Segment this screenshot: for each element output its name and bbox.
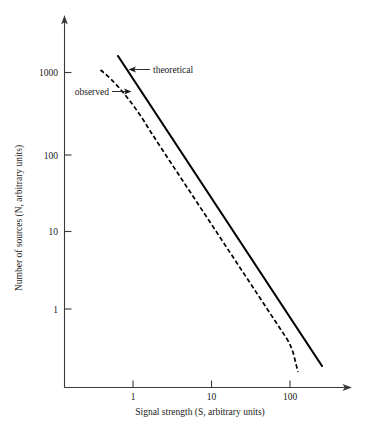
curve-theoretical [118, 56, 322, 366]
y-axis-title: Number of sources (N, arbitrary units) [14, 145, 25, 291]
log-log-plot: 1000 100 10 1 1 10 100 theoretical [0, 0, 365, 440]
y-tick-label-1: 1 [53, 305, 58, 315]
x-tick-label-10: 10 [207, 392, 217, 402]
x-tick-label-100: 100 [283, 392, 298, 402]
x-tick-group: 1 10 100 [131, 381, 298, 403]
theoretical-label: theoretical [153, 65, 193, 75]
axes-group [61, 15, 352, 391]
x-tick-label-1: 1 [131, 392, 136, 402]
y-tick-label-100: 100 [44, 151, 59, 161]
annotation-theoretical: theoretical [129, 65, 194, 75]
observed-label: observed [75, 87, 110, 97]
curve-observed [101, 70, 299, 372]
figure-root: 1000 100 10 1 1 10 100 theoretical [0, 0, 365, 440]
y-tick-label-1000: 1000 [39, 68, 58, 78]
data-curves-group [101, 56, 323, 372]
x-axis-title: Signal strength (S, arbitrary units) [135, 407, 265, 418]
y-tick-group: 1000 100 10 1 [39, 68, 72, 315]
y-tick-label-10: 10 [49, 227, 59, 237]
